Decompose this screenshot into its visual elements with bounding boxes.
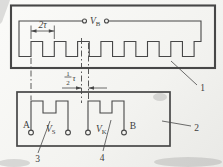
svg-text:1: 1 <box>66 70 70 78</box>
leader-1 <box>171 61 197 85</box>
vs-label: VS <box>46 124 56 135</box>
svg-text:τ: τ <box>73 73 77 83</box>
vb-terminal-left <box>83 19 87 23</box>
cosine-winding <box>88 101 124 130</box>
terminal-a-label: A <box>23 120 30 130</box>
vb-label: VB <box>90 16 101 27</box>
cosine-terminal-left <box>86 130 91 135</box>
sine-terminal-right <box>66 130 71 135</box>
svg-text:2: 2 <box>66 79 70 87</box>
inductosyn-diagram: VB 2τ 1 2 τ VS VK A B 1 <box>0 0 223 167</box>
part-label-3: 3 <box>35 154 40 164</box>
vk-label: VK <box>96 124 107 135</box>
pitch-dimension: 2τ <box>31 20 54 39</box>
scanned-diagram-page: VB 2τ 1 2 τ VS VK A B 1 <box>0 0 223 167</box>
pitch-dimension-label: 2τ <box>38 20 47 30</box>
part-label-4: 4 <box>100 153 105 163</box>
half-pitch-dimension: 1 2 τ <box>62 70 107 90</box>
part-label-1: 1 <box>200 83 205 93</box>
part-label-2: 2 <box>194 123 199 133</box>
scale-body <box>11 6 215 69</box>
leader-2 <box>162 121 191 126</box>
vb-terminal-right <box>105 19 109 23</box>
scan-artifact <box>0 0 222 167</box>
slider-body <box>17 92 170 146</box>
terminal-b-label: B <box>130 121 136 131</box>
cosine-terminal-right <box>122 130 127 135</box>
half-pitch-dimension-label: 1 2 τ <box>65 70 77 87</box>
sine-terminal-left <box>29 130 34 135</box>
leader-3 <box>38 121 50 153</box>
